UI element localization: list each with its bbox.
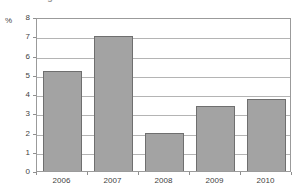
bar <box>94 36 134 171</box>
y-axis-tick-mark <box>33 76 36 77</box>
y-axis-tick-label: 0 <box>2 168 30 176</box>
y-axis-tick-mark <box>33 37 36 38</box>
chart-page: Real GDP growth in % % 012345678 2006200… <box>0 0 299 195</box>
y-axis-tick-mark <box>33 134 36 135</box>
chart-title-text: Real GDP growth in % <box>2 0 100 2</box>
bar <box>145 133 185 172</box>
y-axis-tick-mark <box>33 57 36 58</box>
y-axis-tick-mark <box>33 18 36 19</box>
x-axis-tick-mark <box>291 172 292 175</box>
plot-area <box>36 18 291 172</box>
y-axis-tick-label: 8 <box>2 14 30 22</box>
x-axis-tick-mark <box>36 172 37 175</box>
bar <box>43 71 83 171</box>
bar <box>247 99 287 171</box>
y-axis-tick-mark <box>33 95 36 96</box>
x-axis-tick-mark <box>189 172 190 175</box>
y-axis-tick-mark <box>33 153 36 154</box>
y-axis-tick-label: 6 <box>2 53 30 61</box>
x-axis-tick-mark <box>138 172 139 175</box>
y-axis-tick-label: 1 <box>2 149 30 157</box>
x-axis-tick-label: 2006 <box>36 176 87 185</box>
bar-series <box>37 19 290 171</box>
y-axis-tick-label: 3 <box>2 110 30 118</box>
y-axis-tick-label: 7 <box>2 33 30 41</box>
y-axis-tick-label: 5 <box>2 72 30 80</box>
y-axis-tick-label: 4 <box>2 91 30 99</box>
x-axis-tick-label: 2008 <box>138 176 189 185</box>
x-axis-tick-label: 2007 <box>87 176 138 185</box>
x-axis-tick-label: 2009 <box>189 176 240 185</box>
y-axis-tick-mark <box>33 114 36 115</box>
x-axis-tick-mark <box>87 172 88 175</box>
y-axis-tick-label: 2 <box>2 130 30 138</box>
clipped-title: Real GDP growth in % <box>0 0 299 6</box>
x-axis-tick-label: 2010 <box>240 176 291 185</box>
bar <box>196 106 236 171</box>
x-axis-tick-mark <box>240 172 241 175</box>
